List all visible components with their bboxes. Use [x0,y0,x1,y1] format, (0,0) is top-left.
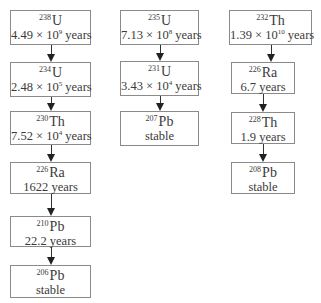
nuclide-box-238u: 238U4.49 × 109 years [10,10,91,45]
nuclide-label: 226Ra [11,165,90,180]
half-life-unit: years [285,28,315,42]
half-life: stable [232,180,294,195]
half-life-unit: years [62,80,92,94]
half-life: 1.39 × 1010 years [230,28,311,43]
nuclide-box-232th: 232Th1.39 × 1010 years [229,10,312,45]
nuclide-box-231u: 231U3.43 × 104 years [120,61,199,96]
arrow-head-icon [47,257,55,265]
element-symbol: Th [269,13,285,28]
element-symbol: U [161,64,171,79]
nuclide-label: 206Pb [11,268,90,283]
half-life-value: 2.48 × 10 [11,80,59,94]
nuclide-label: 228Th [232,115,294,130]
half-life: stable [121,129,198,144]
mass-number: 232 [256,13,268,22]
half-life-exponent: 10 [278,28,285,36]
arrow-head-icon [156,53,164,61]
half-life: 3.43 × 104 years [121,79,198,94]
arrow-head-icon [47,54,55,62]
element-symbol: Pb [159,114,174,129]
half-life: 2.48 × 105 years [11,80,90,95]
element-symbol: U [52,13,62,28]
half-life-value: 7.13 × 10 [121,28,169,42]
element-symbol: Th [49,114,65,129]
mass-number: 230 [36,114,48,123]
nuclide-label: 210Pb [11,219,90,234]
half-life-value: stable [248,180,277,194]
mass-number: 206 [37,268,49,277]
half-life: 7.13 × 108 years [121,28,198,43]
element-symbol: Ra [262,65,278,80]
half-life: 6.7 years [232,80,294,95]
nuclide-box-228th: 228Th1.9 years [231,112,295,144]
arrow-head-icon [259,154,267,162]
element-symbol: Pb [50,268,65,283]
half-life-unit: years [172,28,202,42]
half-life-value: 7.52 × 10 [11,129,59,143]
nuclide-box-207pb: 207Pbstable [120,111,199,146]
nuclide-box-235u: 235U7.13 × 108 years [120,10,199,45]
element-symbol: Pb [262,165,277,180]
half-life-value: 6.7 years [240,80,285,94]
mass-number: 231 [148,64,160,73]
half-life: stable [11,283,90,298]
half-life: 1622 years [11,180,90,195]
nuclide-label: 208Pb [232,165,294,180]
nuclide-box-234u: 234U2.48 × 105 years [10,62,91,97]
half-life-value: stable [36,283,65,297]
mass-number: 207 [146,114,158,123]
arrow-head-icon [47,154,55,162]
nuclide-box-210pb: 210Pb22.2 years [10,216,91,247]
arrow-head-icon [156,103,164,111]
arrow-head-icon [267,54,275,62]
mass-number: 228 [249,115,261,124]
element-symbol: Pb [50,219,65,234]
nuclide-box-226ra: 226Ra1622 years [10,162,91,194]
element-symbol: U [161,13,171,28]
mass-number: 235 [148,13,160,22]
half-life-value: 22.2 years [25,234,76,248]
arrow-head-icon [47,103,55,111]
nuclide-box-226ra: 226Ra6.7 years [231,62,295,94]
half-life-unit: years [62,28,92,42]
mass-number: 208 [249,165,261,174]
half-life: 7.52 × 104 years [11,129,90,144]
nuclide-label: 234U [11,65,90,80]
mass-number: 210 [37,219,49,228]
mass-number: 234 [39,65,51,74]
half-life-unit: years [62,129,92,143]
element-symbol: U [52,65,62,80]
nuclide-box-208pb: 208Pbstable [231,162,295,194]
arrow-head-icon [47,208,55,216]
nuclide-label: 238U [11,13,90,28]
half-life: 4.49 × 109 years [11,28,90,43]
nuclide-label: 231U [121,64,198,79]
mass-number: 226 [36,165,48,174]
nuclide-label: 235U [121,13,198,28]
half-life-value: stable [145,129,174,143]
nuclide-box-206pb: 206Pbstable [10,265,91,298]
nuclide-box-230th: 230Th7.52 × 104 years [10,111,91,145]
arrow-head-icon [259,104,267,112]
half-life-value: 3.43 × 10 [121,79,169,93]
half-life-value: 1622 years [23,180,78,194]
half-life: 1.9 years [232,130,294,145]
nuclide-label: 207Pb [121,114,198,129]
half-life-value: 4.49 × 10 [11,28,59,42]
half-life-value: 1.9 years [240,130,285,144]
element-symbol: Ra [49,165,65,180]
arrow-shaft [51,194,52,209]
nuclide-label: 232Th [230,13,311,28]
element-symbol: Th [262,115,278,130]
nuclide-label: 226Ra [232,65,294,80]
nuclide-label: 230Th [11,114,90,129]
mass-number: 226 [249,65,261,74]
half-life-value: 1.39 × 10 [230,28,278,42]
mass-number: 238 [39,13,51,22]
half-life-unit: years [172,79,202,93]
